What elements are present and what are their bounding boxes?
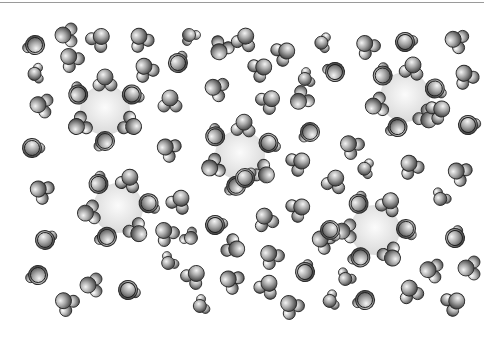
water-molecule (439, 287, 470, 319)
water-molecule (152, 133, 183, 165)
water-molecule (299, 123, 320, 143)
shell-water-molecule (396, 219, 416, 240)
water-molecule (430, 185, 452, 208)
water-molecule (392, 29, 420, 56)
water-molecule (54, 43, 87, 75)
water-molecule (351, 287, 377, 312)
water-molecule (450, 60, 482, 91)
ion-clusters (64, 54, 448, 271)
water-molecule (252, 270, 284, 301)
water-molecule (285, 83, 317, 116)
water-molecule (24, 262, 50, 287)
water-molecule (321, 58, 348, 86)
water-molecule (355, 156, 380, 181)
water-molecule (115, 277, 142, 305)
hydrated-ion-cluster (64, 69, 147, 151)
water-molecule (320, 166, 350, 195)
water-molecule (395, 276, 425, 305)
shell-water-molecule (230, 113, 257, 138)
water-molecule (192, 294, 212, 315)
water-molecule (236, 168, 257, 188)
water-molecule (160, 250, 180, 271)
water-molecule (158, 90, 182, 112)
water-molecule (202, 212, 230, 239)
water-molecule (395, 150, 427, 181)
water-molecule (269, 37, 300, 69)
water-molecule (455, 112, 483, 139)
hydrated-ion-cluster (76, 165, 161, 249)
water-molecule (19, 134, 47, 162)
water-molecule (246, 53, 277, 85)
water-molecule (26, 61, 50, 85)
water-molecule (130, 53, 162, 84)
water-molecule (164, 185, 196, 216)
water-molecule (253, 84, 285, 117)
water-molecule (321, 288, 343, 311)
water-molecule (335, 129, 367, 162)
water-molecule (28, 91, 54, 118)
water-molecule (219, 232, 250, 264)
water-molecule (250, 204, 280, 233)
hydrated-ion-cluster (334, 188, 417, 271)
water-molecule (284, 147, 315, 179)
shell-water-molecule (76, 199, 101, 226)
water-molecule (442, 224, 470, 251)
water-molecule (441, 25, 470, 55)
water-molecule (297, 67, 317, 88)
water-molecule (34, 229, 58, 252)
water-molecule (350, 30, 383, 62)
water-molecule (312, 30, 337, 55)
water-molecule (292, 258, 320, 285)
water-molecule (178, 226, 199, 246)
water-molecule (215, 265, 246, 297)
water-molecule (205, 34, 237, 65)
water-molecule (83, 23, 116, 55)
water-molecule (183, 29, 201, 46)
water-molecule (335, 265, 357, 288)
water-molecule (80, 273, 102, 297)
water-molecule (284, 193, 315, 225)
hydrated-ion-cluster (362, 54, 447, 139)
water-molecule (25, 175, 56, 207)
water-molecule (55, 23, 77, 47)
water-molecule (149, 217, 182, 249)
water-molecule (21, 32, 47, 57)
water-molecule (125, 23, 157, 54)
water-molecule (166, 50, 192, 75)
water-molecule (418, 256, 444, 283)
water-molecule (274, 290, 307, 322)
water-molecule (458, 256, 480, 280)
water-molecule (50, 286, 82, 319)
water-molecule (443, 157, 474, 189)
water-molecule (254, 240, 287, 272)
water-molecule (178, 260, 211, 292)
shell-water-molecule (94, 132, 115, 152)
hydrated-ions-illustration (0, 0, 500, 339)
water-molecule (201, 73, 230, 103)
